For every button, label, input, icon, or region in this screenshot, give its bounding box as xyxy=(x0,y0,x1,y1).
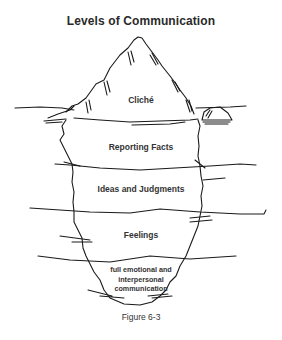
level-line-3 xyxy=(38,256,236,262)
surface-waterline xyxy=(15,107,74,110)
level-label-reporting-facts: Reporting Facts xyxy=(0,142,282,152)
level-label-cliche: Cliché xyxy=(0,95,282,105)
level-line-2 xyxy=(30,208,266,214)
level-line-1 xyxy=(55,164,256,170)
level-label-line: interpersonal xyxy=(0,275,282,285)
figure-caption: Figure 6-3 xyxy=(0,312,282,322)
level-label-full-communication: full emotional and interpersonal communi… xyxy=(0,265,282,294)
small-ice-chunk xyxy=(202,107,232,120)
level-label-line: communication xyxy=(0,284,282,294)
level-label-ideas-judgments: Ideas and Judgments xyxy=(0,184,282,194)
level-label-feelings: Feelings xyxy=(0,230,282,240)
level-label-line: full emotional and xyxy=(0,265,282,275)
